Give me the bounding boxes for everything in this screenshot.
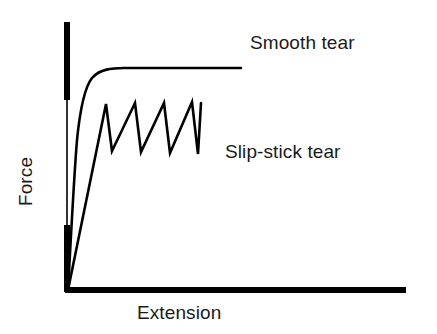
force-extension-tear-figure: Force Extension Smooth tear Slip-stick t… bbox=[0, 0, 437, 334]
smooth-tear-curve bbox=[68, 68, 241, 290]
x-axis-label: Extension bbox=[137, 303, 221, 322]
plot-canvas bbox=[0, 0, 437, 334]
y-axis-label: Force bbox=[16, 157, 35, 206]
slip-stick-tear-curve bbox=[68, 102, 201, 290]
smooth-tear-label: Smooth tear bbox=[250, 33, 355, 52]
slip-stick-tear-label: Slip-stick tear bbox=[225, 142, 341, 161]
